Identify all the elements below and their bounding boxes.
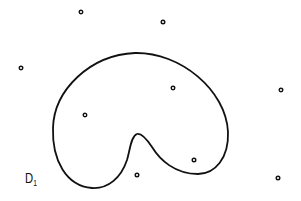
region-label-main: D: [25, 169, 33, 186]
point-marker: [135, 173, 139, 177]
diagram-canvas: [0, 0, 301, 201]
point-marker: [79, 10, 83, 14]
region-label-d1: D1: [25, 170, 37, 188]
point-marker: [171, 86, 175, 90]
point-marker: [276, 176, 280, 180]
closed-curve-region: [53, 53, 228, 188]
point-marker: [192, 158, 196, 162]
region-label-subscript: 1: [33, 178, 37, 188]
point-marker: [161, 20, 165, 24]
point-marker: [83, 113, 87, 117]
point-marker: [19, 66, 23, 70]
point-set: [19, 10, 283, 180]
point-marker: [279, 88, 283, 92]
